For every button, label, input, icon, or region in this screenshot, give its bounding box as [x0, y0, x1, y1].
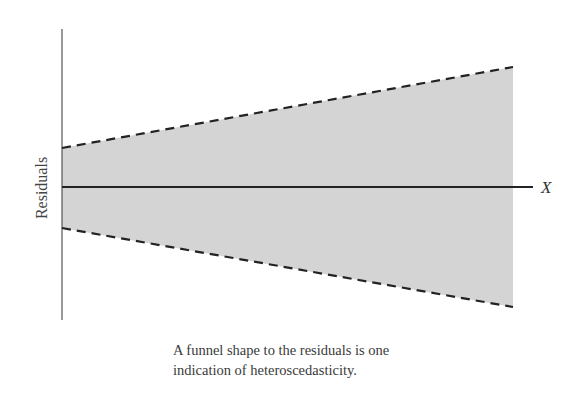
caption: A funnel shape to the residuals is one i…	[173, 340, 389, 380]
x-axis-label: X	[541, 178, 551, 198]
caption-line-1: A funnel shape to the residuals is one	[173, 340, 389, 360]
caption-line-2: indication of heteroscedasticity.	[173, 360, 389, 380]
y-axis-label: Residuals	[33, 157, 51, 219]
